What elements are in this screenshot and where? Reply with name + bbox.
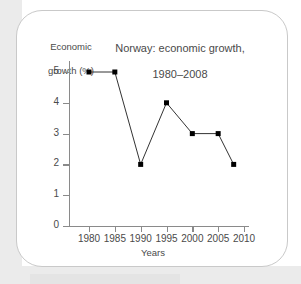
data-point-2000	[190, 131, 195, 136]
data-point-1995	[164, 100, 169, 105]
data-series	[17, 11, 289, 268]
data-point-1980	[87, 70, 92, 75]
data-point-1985	[112, 70, 117, 75]
series-line	[89, 72, 234, 164]
backdrop-band-bottom-accent	[30, 274, 180, 284]
data-point-2008	[231, 162, 236, 167]
data-point-1990	[138, 162, 143, 167]
data-point-2005	[216, 131, 221, 136]
figure-card: Economic growth (%) Norway: economic gro…	[16, 10, 288, 267]
chart-figure: Economic growth (%) Norway: economic gro…	[17, 11, 287, 266]
x-axis-label: Years	[53, 247, 253, 258]
plot-area: 012345 1980198519901995200020052010	[17, 11, 289, 268]
